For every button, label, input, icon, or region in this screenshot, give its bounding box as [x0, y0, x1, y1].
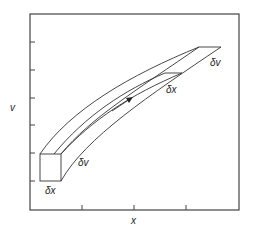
y-axis-label: v [10, 102, 16, 113]
y-axis-ticks [30, 42, 35, 181]
phase-space-diagram: v x δx δv δx δv [0, 0, 254, 234]
phase-space-tube [40, 47, 221, 181]
box-bottom-label: δx [45, 185, 57, 196]
initial-volume-box [40, 154, 61, 181]
box-side-label: δv [78, 157, 90, 168]
x-axis-ticks [82, 205, 186, 210]
mid-step-label: δx [166, 84, 178, 95]
x-axis-label: x [130, 215, 137, 226]
end-side-label: δv [210, 57, 222, 68]
